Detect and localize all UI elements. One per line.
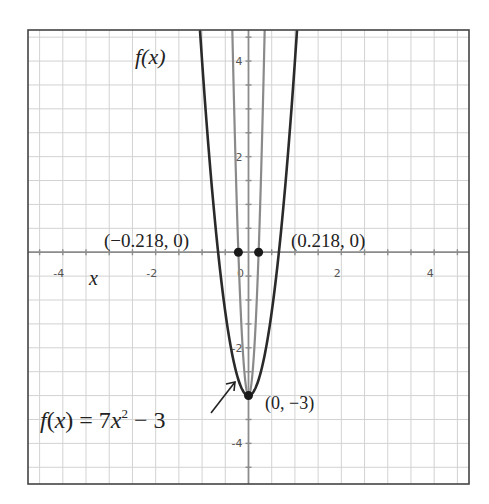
root-right-label: (0.218, 0): [291, 230, 365, 252]
y-tick-label: -4: [232, 437, 243, 450]
equation-suffix: − 3: [128, 407, 166, 433]
x-tick-label: 2: [334, 267, 341, 280]
equation-rest: ) = 7: [65, 407, 111, 433]
data-point: [244, 391, 253, 400]
equation-x: x: [54, 407, 66, 433]
equation-open: (: [47, 407, 55, 433]
x-tick-label: 4: [427, 267, 434, 280]
data-point: [254, 248, 263, 257]
y-axis-label: f(x): [135, 44, 166, 69]
equation-label: f(x) = 7x2 − 3: [40, 406, 166, 433]
data-point: [234, 248, 243, 257]
parabola-chart: -4-2024-4-224 f(x) x (−0.218, 0) (0.218,…: [0, 0, 489, 504]
x-tick-label: -4: [53, 267, 64, 280]
vertex-label: (0, −3): [265, 393, 314, 414]
x-axis-label: x: [88, 267, 98, 289]
root-left-label: (−0.218, 0): [104, 230, 189, 252]
equation-var: x: [110, 407, 122, 433]
y-tick-label: 4: [236, 55, 243, 68]
annotation-arrow-icon: [211, 382, 235, 413]
x-tick-label: -2: [146, 267, 157, 280]
